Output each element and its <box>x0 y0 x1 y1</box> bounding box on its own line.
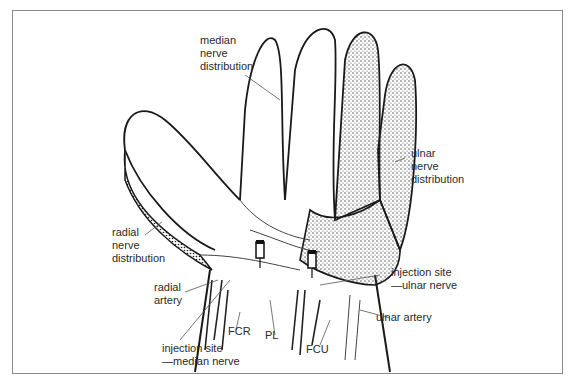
needle-ulnar <box>308 250 316 278</box>
label-fcr: FCR <box>228 325 251 338</box>
ring-finger-ulnar <box>335 32 380 220</box>
needle-median <box>256 240 264 268</box>
label-ulnar-nerve-distribution: ulnar nerve distribution <box>411 147 464 186</box>
middle-finger <box>285 29 336 220</box>
label-ulnar-artery: ulnar artery <box>376 311 432 324</box>
label-injection-site-median: injection site —median nerve <box>162 342 240 368</box>
hand-illustration <box>0 0 575 385</box>
label-injection-site-ulnar: injection site —ulnar nerve <box>391 266 457 292</box>
label-median-nerve-distribution: median nerve distribution <box>200 34 253 73</box>
label-pl: PL <box>265 329 278 342</box>
label-radial-nerve-distribution: radial nerve distribution <box>112 226 165 265</box>
label-radial-artery: radial artery <box>154 281 182 307</box>
label-fcu: FCU <box>306 343 329 356</box>
